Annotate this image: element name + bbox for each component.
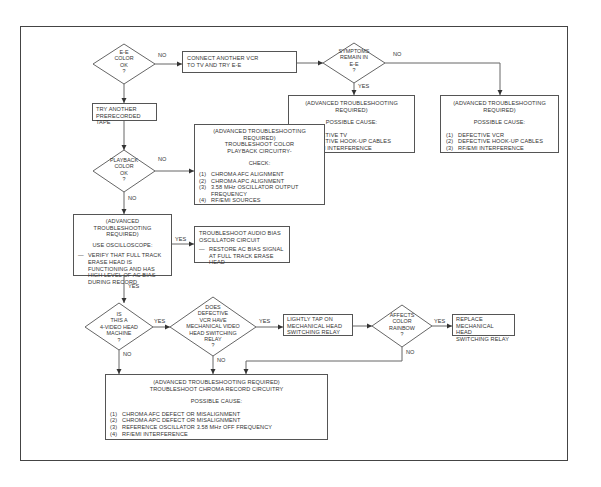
- text-line: ?: [99, 68, 149, 74]
- edge-label-relay-yes: YES: [259, 318, 270, 324]
- playback-color-ok-decision: PLAYBACK COLOR OK ?: [99, 157, 149, 183]
- check-item: (2)CHROMA APC ALIGNMENT: [199, 178, 320, 185]
- check-item: (1)CHROMA AFC ALIGNMENT: [199, 171, 320, 178]
- subheader: POSSIBLE CAUSE:: [446, 119, 553, 126]
- item-number: (3): [199, 184, 211, 197]
- edge-label-relay-no: NO: [217, 357, 225, 363]
- text-line: TROUBLESHOOT CHROMA RECORD CIRCUITRY: [110, 386, 323, 393]
- text-line: ?: [99, 176, 149, 182]
- adv-defective-vcr-box: (ADVANCED TROUBLESHOOTING REQUIRED) POSS…: [440, 95, 559, 153]
- edge-label-symptoms-no: NO: [393, 51, 401, 57]
- item-text: DEFECTIVE HOOK-UP CABLES: [458, 138, 543, 145]
- cause-item: (3)REFERENCE OSCILLATOR 3.58 MHz OFF FRE…: [110, 424, 323, 431]
- item-number: (4): [199, 197, 211, 204]
- item-number: (4): [110, 431, 122, 438]
- four-video-head-decision: IS THIS A 4-VIDEO HEAD MACHINE ?: [89, 311, 149, 343]
- check-item: (4)RF/EMI SOURCES: [199, 197, 320, 204]
- cause-item: (2)CHROMA APC DEFECT OR MISALIGNMENT: [110, 417, 323, 424]
- text-line: SWITCHING RELAY: [287, 329, 349, 336]
- item-text: REFERENCE OSCILLATOR 3.58 MHz OFF FREQUE…: [122, 424, 272, 431]
- adv-playback-circuitry-box: (ADVANCED TROUBLESHOOTING REQUIRED) TROU…: [194, 124, 325, 205]
- affects-rainbow-decision: AFFECTS COLOR RAINBOW ?: [377, 312, 427, 338]
- item-text: DEFECTIVE VCR: [458, 132, 504, 139]
- mechanical-relay-decision: DOES DEFECTIVE VCR HAVE MECHANICAL VIDEO…: [176, 304, 250, 349]
- edge-label-ee-no: NO: [158, 52, 166, 58]
- item-number: (2): [446, 138, 458, 145]
- edge-label-four-head-yes: YES: [154, 318, 165, 324]
- subheader: POSSIBLE CAUSE:: [110, 398, 323, 405]
- subheader: USE OSCILLOSCOPE:: [78, 242, 167, 249]
- item-text: 3.58 MHz OSCILLATOR OUTPUT FREQUENCY: [211, 184, 320, 197]
- edge-label-four-head-no: NO: [123, 351, 131, 357]
- text-line: OSCILLATOR CIRCUIT: [199, 237, 285, 244]
- symptoms-remain-decision: SYMPTOMS REMAIN IN E-E ?: [326, 48, 382, 74]
- item-number: (3): [446, 145, 458, 152]
- item-text: RESTORE AC BIAS SIGNAL AT FULL TRACK ERA…: [209, 246, 285, 266]
- cause-item: (1)CHROMA AFC DEFECT OR MISALIGNMENT: [110, 411, 323, 418]
- item-text: RF/EMI INTERFERENCE: [458, 145, 524, 152]
- item-number: (1): [446, 132, 458, 139]
- item-number: (2): [199, 178, 211, 185]
- text-line: LIGHTLY TAP ON: [287, 316, 349, 323]
- item-text: VERIFY THAT FULL TRACK ERASE HEAD IS FUN…: [88, 252, 167, 285]
- instruction-item: —RESTORE AC BIAS SIGNAL AT FULL TRACK ER…: [199, 246, 285, 266]
- tap-relay-box: LIGHTLY TAP ON MECHANICAL HEAD SWITCHING…: [283, 314, 353, 336]
- adv-oscilloscope-box: (ADVANCED TROUBLESHOOTING REQUIRED) USE …: [73, 214, 172, 276]
- edge-label-playback-no-right: NO: [158, 156, 166, 162]
- text-line: (ADVANCED TROUBLESHOOTING REQUIRED): [110, 379, 323, 386]
- cause-item: (3)RF/EMI INTERFERENCE: [446, 145, 553, 152]
- text-line: MECHANICAL HEAD: [456, 323, 511, 336]
- check-item: (3)3.58 MHz OSCILLATOR OUTPUT FREQUENCY: [199, 184, 320, 197]
- text-line: (ADVANCED TROUBLESHOOTING: [78, 218, 167, 231]
- text-line: TROUBLESHOOT COLOR: [199, 141, 320, 148]
- text-line: ?: [89, 337, 149, 343]
- edge-label-osc-yes-down: YES: [128, 283, 139, 289]
- item-text: CHROMA APC ALIGNMENT: [211, 178, 284, 185]
- text-line: PRERECORDED TAPE: [96, 113, 153, 126]
- text-line: (ADVANCED TROUBLESHOOTING: [446, 100, 553, 107]
- text-line: REPLACE: [456, 316, 511, 323]
- item-text: CHROMA AFC ALIGNMENT: [211, 171, 284, 178]
- text-line: ?: [377, 331, 427, 337]
- text-line: TROUBLESHOOT AUDIO BIAS: [199, 230, 285, 237]
- text-line: REQUIRED): [294, 107, 409, 114]
- edge-label-symptoms-yes: YES: [358, 83, 369, 89]
- text-line: SWITCHING RELAY: [456, 336, 511, 343]
- text-line: ?: [176, 342, 250, 348]
- text-line: MECHANICAL HEAD: [287, 323, 349, 330]
- edge-label-playback-no-down: NO: [128, 195, 136, 201]
- edge-label-rainbow-yes: YES: [434, 318, 445, 324]
- audio-bias-box: TROUBLESHOOT AUDIO BIAS OSCILLATOR CIRCU…: [194, 226, 290, 263]
- text-line: MECHANICAL VIDEO: [176, 323, 250, 329]
- subheader: CHECK:: [199, 160, 320, 167]
- dash-bullet: —: [199, 246, 209, 266]
- item-number: (3): [110, 424, 122, 431]
- edge-label-osc-yes-right: YES: [175, 236, 186, 242]
- ee-color-ok-decision: E-E COLOR OK ?: [99, 49, 149, 75]
- text-line: TO TV AND TRY E-E: [187, 62, 292, 69]
- text-line: ?: [326, 67, 382, 73]
- item-text: RF/EMI SOURCES: [211, 197, 261, 204]
- connect-another-vcr-box: CONNECT ANOTHER VCR TO TV AND TRY E-E: [182, 51, 297, 73]
- edge-label-rainbow-no: NO: [406, 349, 414, 355]
- text-line: (ADVANCED TROUBLESHOOTING: [294, 100, 409, 107]
- item-number: (1): [110, 411, 122, 418]
- text-line: REQUIRED): [199, 135, 320, 142]
- item-number: (2): [110, 417, 122, 424]
- instruction-item: —VERIFY THAT FULL TRACK ERASE HEAD IS FU…: [78, 252, 167, 285]
- text-line: TRY ANOTHER: [96, 106, 153, 113]
- cause-item: (2)DEFECTIVE HOOK-UP CABLES: [446, 138, 553, 145]
- text-line: CONNECT ANOTHER VCR: [187, 55, 292, 62]
- adv-chroma-record-box: (ADVANCED TROUBLESHOOTING REQUIRED) TROU…: [105, 374, 328, 440]
- cause-item: (4)RF/EMI INTERFERENCE: [110, 431, 323, 438]
- item-text: RF/EMI INTERFERENCE: [122, 431, 188, 438]
- dash-bullet: —: [78, 252, 88, 285]
- text-line: REQUIRED): [446, 107, 553, 114]
- item-text: CHROMA AFC DEFECT OR MISALIGNMENT: [122, 411, 240, 418]
- text-line: (ADVANCED TROUBLESHOOTING: [199, 128, 320, 135]
- replace-relay-box: REPLACE MECHANICAL HEAD SWITCHING RELAY: [452, 314, 515, 336]
- cause-item: (1)DEFECTIVE VCR: [446, 132, 553, 139]
- try-another-tape-box: TRY ANOTHER PRERECORDED TAPE: [92, 103, 157, 121]
- text-line: PLAYBACK CIRCUITRY-: [199, 148, 320, 155]
- item-number: (1): [199, 171, 211, 178]
